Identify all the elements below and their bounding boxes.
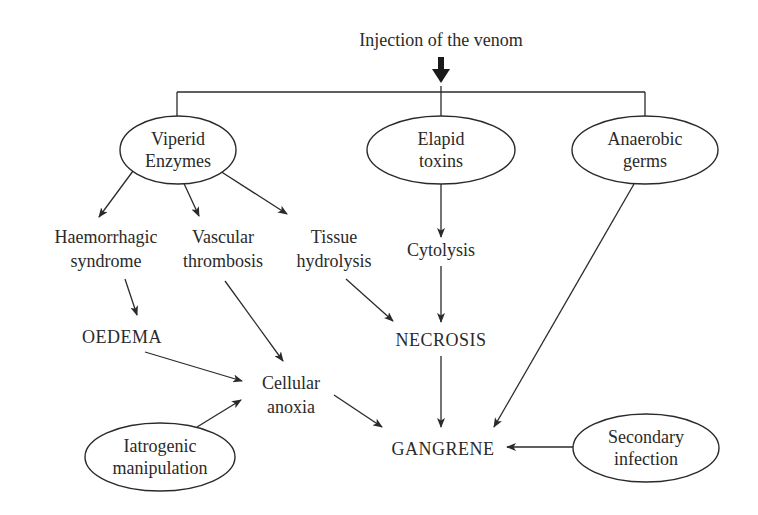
edge-viperid-haemorrhagic [99, 171, 133, 217]
node-secondary-infection: Secondary infection [573, 414, 719, 482]
svg-text:toxins: toxins [419, 151, 463, 171]
svg-text:Vascular: Vascular [192, 227, 254, 247]
node-elapid-toxins: Elapid toxins [367, 116, 515, 184]
node-vascular-thrombosis: Vascular thrombosis [183, 227, 263, 271]
node-iatrogenic-manipulation: Iatrogenic manipulation [85, 423, 235, 491]
svg-text:anoxia: anoxia [267, 397, 315, 417]
edge-oedema-cellular [145, 352, 242, 381]
edge-viperid-tissue [220, 171, 287, 214]
edge-tissue-necrosis [346, 279, 393, 321]
node-oedema: OEDEMA [82, 327, 162, 347]
edges [99, 171, 634, 447]
branch-bracket [177, 86, 645, 116]
edge-anaerobic-gangrene [494, 184, 634, 427]
node-haemorrhagic-syndrome: Haemorrhagic syndrome [55, 227, 158, 271]
svg-text:thrombosis: thrombosis [183, 251, 263, 271]
edge-vascular-cellular [225, 281, 283, 361]
svg-text:NECROSIS: NECROSIS [395, 330, 486, 350]
edge-cellular-gangrene [334, 395, 382, 427]
node-cellular-anoxia: Cellular anoxia [262, 373, 320, 417]
node-anaerobic-germs: Anaerobic germs [572, 116, 718, 184]
svg-text:Enzymes: Enzymes [145, 151, 211, 171]
node-cytolysis: Cytolysis [407, 240, 475, 260]
svg-text:Iatrogenic: Iatrogenic [124, 436, 197, 456]
diagram-title: Injection of the venom [359, 30, 522, 50]
svg-text:Secondary: Secondary [608, 427, 684, 447]
svg-text:syndrome: syndrome [71, 251, 142, 271]
svg-text:infection: infection [614, 449, 678, 469]
svg-text:Viperid: Viperid [151, 129, 205, 149]
node-tissue-hydrolysis: Tissue hydrolysis [296, 227, 371, 271]
svg-text:germs: germs [623, 151, 667, 171]
svg-text:Cellular: Cellular [262, 373, 320, 393]
svg-text:GANGRENE: GANGRENE [392, 439, 495, 459]
edge-iatrogenic-cellular [197, 400, 241, 427]
node-necrosis: NECROSIS [395, 330, 486, 350]
bold-down-arrow-icon [432, 57, 450, 83]
svg-text:hydrolysis: hydrolysis [296, 251, 371, 271]
svg-text:OEDEMA: OEDEMA [82, 327, 162, 347]
node-viperid-enzymes: Viperid Enzymes [120, 116, 236, 184]
svg-text:Elapid: Elapid [418, 129, 465, 149]
svg-text:Anaerobic: Anaerobic [608, 129, 683, 149]
venom-gangrene-flowchart: Injection of the venom [0, 0, 758, 515]
node-gangrene: GANGRENE [392, 439, 495, 459]
svg-text:Cytolysis: Cytolysis [407, 240, 475, 260]
edge-haemorrhagic-oedema [125, 279, 137, 315]
svg-text:Haemorrhagic: Haemorrhagic [55, 227, 158, 247]
svg-text:manipulation: manipulation [113, 458, 208, 478]
svg-text:Tissue: Tissue [311, 227, 357, 247]
